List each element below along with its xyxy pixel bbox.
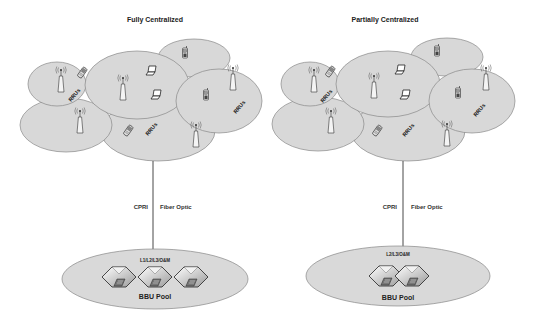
diagram-title: Fully Centralized xyxy=(127,16,183,24)
rru-cell-cluster xyxy=(272,38,515,161)
cell-top-left xyxy=(28,62,86,106)
mobile-phone-icon xyxy=(456,86,461,98)
fiber-optic-label: Fiber Optic xyxy=(160,204,192,210)
cell-right xyxy=(176,69,262,133)
bbu-layers-label: L1/L2/L3/O&M xyxy=(140,258,170,263)
bbu-pool-label: BBU Pool xyxy=(139,293,171,300)
cell-center xyxy=(336,51,440,117)
cpri-label: CPRI xyxy=(134,204,149,210)
mobile-phone-icon xyxy=(183,46,188,58)
bbu-pool: L2/L3/O&M BBU Pool xyxy=(306,246,490,306)
diagram-fully-centralized: Fully Centralized RRUs RRUs RRUs CPRI Fi… xyxy=(20,16,262,309)
diagram-partially-centralized: Partially Centralized RRUs RRUs RRUs CPR… xyxy=(272,16,515,306)
cran-architecture-diagram: Fully Centralized RRUs RRUs RRUs CPRI Fi… xyxy=(0,0,535,321)
bbu-pool: L1/L2/L3/O&M BBU Pool xyxy=(62,249,248,309)
diagram-title: Partially Centralized xyxy=(352,16,419,24)
rru-cell-cluster xyxy=(20,39,262,161)
fiber-optic-label: Fiber Optic xyxy=(411,204,443,210)
bbu-pool-label: BBU Pool xyxy=(382,294,414,301)
mobile-phone-icon xyxy=(435,44,440,56)
mobile-phone-icon xyxy=(204,88,209,100)
cpri-label: CPRI xyxy=(383,204,398,210)
bbu-layers-label: L2/L3/O&M xyxy=(386,252,410,257)
cell-center xyxy=(85,51,189,119)
